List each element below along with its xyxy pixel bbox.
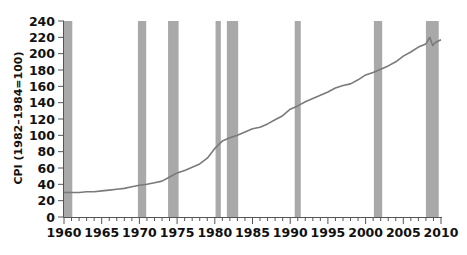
y-tick-label: 160	[29, 79, 55, 94]
y-tick-label: 200	[29, 46, 55, 61]
recession-bar	[374, 21, 382, 217]
x-tick-label: 1980	[197, 225, 232, 240]
recession-bar	[227, 21, 238, 217]
x-tick-label: 2000	[348, 225, 383, 240]
y-tick-label: 220	[29, 30, 55, 45]
x-tick-label: 2010	[424, 225, 459, 240]
recession-bar	[168, 21, 179, 217]
recession-bar	[426, 21, 439, 217]
recession-bar	[295, 21, 301, 217]
x-tick-label: 1975	[160, 225, 195, 240]
y-axis-title: CPI (1982–1984=100)	[12, 51, 25, 184]
y-axis-ticks: 020406080100120140160180200220240	[29, 14, 64, 225]
x-tick-label: 1995	[311, 225, 346, 240]
y-tick-label: 140	[29, 95, 55, 110]
x-tick-label: 1990	[273, 225, 308, 240]
x-tick-label: 1985	[235, 225, 270, 240]
y-tick-label: 20	[38, 193, 56, 208]
y-tick-label: 0	[46, 210, 55, 225]
x-tick-label: 1960	[47, 225, 82, 240]
recession-bar	[138, 21, 146, 217]
y-tick-label: 60	[38, 161, 56, 176]
y-tick-label: 240	[29, 14, 55, 29]
figure-caption-clipped	[6, 249, 246, 255]
x-tick-label: 1965	[84, 225, 119, 240]
x-tick-label: 2005	[386, 225, 421, 240]
recession-bars	[64, 21, 439, 217]
y-tick-label: 40	[38, 177, 56, 192]
y-tick-label: 100	[29, 128, 55, 143]
y-tick-label: 180	[29, 63, 55, 78]
y-tick-label: 80	[38, 144, 56, 159]
x-tick-label: 1970	[122, 225, 157, 240]
cpi-chart: 020406080100120140160180200220240 196019…	[0, 0, 467, 255]
cpi-line-series	[64, 37, 441, 192]
y-tick-label: 120	[29, 112, 55, 127]
x-axis-ticks: 1960196519701975198019851990199520002005…	[47, 217, 459, 240]
recession-bar	[216, 21, 221, 217]
recession-bar	[64, 21, 72, 217]
